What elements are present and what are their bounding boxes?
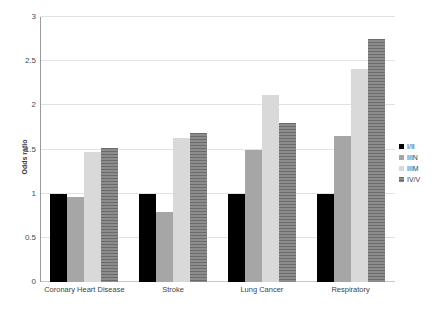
y-axis-tick-label: 0.5 bbox=[6, 234, 36, 242]
bar[interactable] bbox=[368, 39, 385, 282]
bar[interactable] bbox=[334, 136, 351, 282]
legend-item[interactable]: IIIN bbox=[399, 153, 420, 161]
bar[interactable] bbox=[279, 123, 296, 282]
x-axis-category-label: Lung Cancer bbox=[218, 286, 307, 294]
bar[interactable] bbox=[190, 133, 207, 282]
y-axis-line bbox=[40, 17, 41, 282]
legend-swatch-icon bbox=[399, 144, 404, 149]
x-axis-category-labels: Coronary Heart DiseaseStrokeLung CancerR… bbox=[40, 286, 395, 294]
bar[interactable] bbox=[228, 194, 245, 282]
legend-item[interactable]: IIIM bbox=[399, 164, 420, 172]
chart-legend: I/IIIIINIIIMIV/V bbox=[399, 142, 420, 183]
bar[interactable] bbox=[67, 197, 84, 282]
legend-label: IV/V bbox=[407, 176, 420, 183]
bar-chart: Odds ratio 00.511.522.53 Coronary Heart … bbox=[0, 0, 441, 314]
bar-group bbox=[129, 17, 218, 282]
plot-area bbox=[40, 17, 395, 282]
y-axis-tick-label: 2 bbox=[6, 101, 36, 109]
y-axis-tick-label: 0 bbox=[6, 278, 36, 286]
bar[interactable] bbox=[351, 69, 368, 282]
bar[interactable] bbox=[173, 138, 190, 282]
bar-group bbox=[218, 17, 307, 282]
bar[interactable] bbox=[245, 150, 262, 282]
x-axis-category-label: Coronary Heart Disease bbox=[40, 286, 129, 294]
y-axis-tick-label: 3 bbox=[6, 13, 36, 21]
bar-groups bbox=[40, 17, 395, 282]
bar[interactable] bbox=[156, 212, 173, 282]
y-axis-tick-label: 1.5 bbox=[6, 146, 36, 154]
y-axis-tick-label: 2.5 bbox=[6, 57, 36, 65]
legend-item[interactable]: I/II bbox=[399, 142, 420, 150]
x-axis-category-label: Stroke bbox=[129, 286, 218, 294]
bar[interactable] bbox=[317, 194, 334, 282]
legend-swatch-icon bbox=[399, 177, 404, 182]
bar[interactable] bbox=[139, 194, 156, 282]
legend-swatch-icon bbox=[399, 155, 404, 160]
bar[interactable] bbox=[101, 148, 118, 282]
x-axis-category-label: Respiratory bbox=[306, 286, 395, 294]
bar[interactable] bbox=[50, 194, 67, 282]
legend-swatch-icon bbox=[399, 166, 404, 171]
y-axis-tick-labels: 00.511.522.53 bbox=[0, 0, 36, 314]
legend-label: I/II bbox=[407, 143, 415, 150]
bar[interactable] bbox=[262, 95, 279, 282]
bar[interactable] bbox=[84, 152, 101, 282]
y-axis-tick-label: 1 bbox=[6, 190, 36, 198]
legend-label: IIIN bbox=[407, 154, 418, 161]
legend-label: IIIM bbox=[407, 165, 419, 172]
bar-group bbox=[306, 17, 395, 282]
legend-item[interactable]: IV/V bbox=[399, 175, 420, 183]
bar-group bbox=[40, 17, 129, 282]
